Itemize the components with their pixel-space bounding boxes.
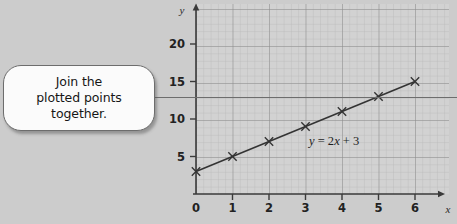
x-tick-label-2: 2 bbox=[265, 201, 273, 215]
callout-connector-line bbox=[153, 97, 457, 98]
x-axis-label: x bbox=[445, 203, 451, 215]
callout-bubble: Join the plotted points together. bbox=[3, 65, 155, 131]
x-tick-label-6: 6 bbox=[411, 201, 419, 215]
y-tick-label-10: 10 bbox=[169, 112, 185, 126]
x-tick-label-0: 0 bbox=[192, 201, 200, 215]
worksheet-graph-figure: 5 10 15 20 0 1 2 3 4 5 6 y x bbox=[0, 0, 457, 224]
callout-text: Join the plotted points together. bbox=[36, 74, 121, 122]
x-tick-label-3: 3 bbox=[301, 201, 309, 215]
y-tick-label-15: 15 bbox=[169, 75, 185, 89]
grid-lines bbox=[196, 4, 449, 194]
equation-equals: = 2 bbox=[315, 134, 335, 148]
y-tick-label-20: 20 bbox=[169, 37, 185, 51]
y-tick-label-5: 5 bbox=[177, 150, 185, 164]
y-axis-label: y bbox=[179, 4, 185, 16]
equation-annotation: y = 2x + 3 bbox=[307, 134, 359, 148]
y-axis-ticks bbox=[190, 44, 196, 157]
x-tick-label-5: 5 bbox=[374, 201, 382, 215]
x-tick-label-4: 4 bbox=[338, 201, 346, 215]
x-axis-ticks bbox=[233, 194, 416, 200]
x-tick-label-1: 1 bbox=[228, 201, 236, 215]
equation-plus: + 3 bbox=[340, 134, 360, 148]
